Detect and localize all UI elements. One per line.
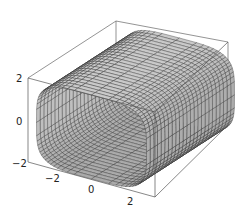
mesh-face (172, 120, 176, 136)
mesh-face (70, 99, 74, 115)
mesh-face (37, 107, 41, 123)
mesh-face (183, 126, 187, 142)
mesh-face (48, 113, 52, 129)
mesh-face (150, 134, 154, 150)
x-tick-label: −2 (45, 173, 60, 184)
z-tick-label: −2 (12, 158, 27, 169)
mesh-face (216, 91, 220, 107)
surface-plot-3d: 2 0 −2 −2 0 2 (0, 0, 243, 211)
x-tick-label: 0 (88, 184, 94, 195)
mesh-face (44, 115, 48, 131)
mesh-face (220, 89, 224, 105)
mesh-face (227, 84, 231, 100)
mesh-face (55, 108, 59, 124)
mesh-face (150, 147, 154, 163)
mesh-face (157, 129, 161, 145)
mesh-face (216, 104, 220, 120)
mesh-face (176, 117, 180, 133)
mesh-face (146, 136, 150, 152)
mesh-face (37, 120, 41, 136)
mesh-face (201, 101, 205, 117)
mesh-face (59, 93, 63, 109)
mesh-face (179, 115, 183, 131)
mesh-face (179, 128, 183, 144)
mesh-face (190, 121, 194, 136)
z-axis-ticks: 2 0 −2 (12, 73, 27, 169)
mesh-face (205, 111, 209, 126)
mesh-face (62, 90, 66, 105)
tube-surface (37, 30, 235, 186)
mesh-face (187, 110, 191, 126)
mesh-face (66, 88, 70, 104)
mesh-face (194, 105, 198, 121)
mesh-face (205, 98, 209, 114)
mesh-face (161, 127, 165, 143)
mesh-face (183, 112, 187, 128)
mesh-face (176, 130, 180, 145)
mesh-face (81, 91, 85, 107)
z-tick-label: 0 (16, 116, 22, 127)
mesh-face (212, 93, 216, 109)
mesh-face (223, 86, 227, 102)
mesh-face (190, 108, 194, 124)
mesh-face (55, 95, 59, 111)
mesh-face (209, 96, 213, 112)
mesh-face (44, 102, 48, 118)
mesh-face (161, 140, 165, 155)
mesh-face (212, 107, 216, 123)
mesh-face (77, 94, 81, 110)
mesh-face (168, 135, 172, 151)
mesh-face (168, 122, 172, 138)
mesh-face (51, 110, 55, 126)
mesh-face (172, 133, 176, 149)
mesh-face (157, 142, 161, 158)
mesh-face (220, 102, 224, 117)
mesh-face (66, 101, 70, 117)
mesh-face (231, 82, 235, 98)
mesh-face (223, 100, 227, 116)
x-tick-label: 2 (127, 196, 133, 207)
mesh-face (154, 131, 158, 147)
mesh-face (198, 103, 202, 119)
mesh-face (62, 103, 66, 119)
mesh-face (59, 106, 63, 122)
mesh-face (48, 100, 52, 115)
mesh-face (227, 97, 231, 113)
mesh-face (73, 96, 77, 112)
mesh-face (201, 114, 205, 130)
mesh-face (40, 118, 44, 134)
mesh-face (194, 119, 198, 135)
mesh-face (165, 124, 169, 140)
z-tick-label: 2 (16, 73, 22, 84)
mesh-face (146, 149, 150, 164)
